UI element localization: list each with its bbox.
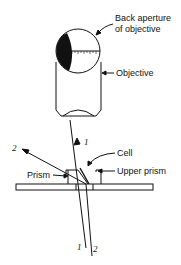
label-prism: Prism (27, 170, 50, 180)
ray-1-top-number: 1 (84, 137, 89, 147)
label-upper-prism: Upper prism (117, 166, 166, 176)
ray-2-top-number: 2 (12, 143, 17, 153)
ray-2-arrow (22, 149, 29, 154)
label-cell: Cell (117, 148, 133, 158)
ray-1-arrow (74, 138, 80, 145)
back-aperture (56, 29, 100, 73)
ray-1-bottom-number: 1 (77, 242, 82, 252)
ray-2-lower (86, 184, 92, 256)
tir-microscope-diagram: Back aperture of objective Objective Cel… (0, 0, 181, 265)
label-back-aperture-2: of objective (115, 24, 161, 34)
label-back-aperture-1: Back aperture (115, 13, 171, 23)
ray-2-bottom-number: 2 (93, 244, 98, 254)
label-objective: Objective (116, 68, 154, 78)
